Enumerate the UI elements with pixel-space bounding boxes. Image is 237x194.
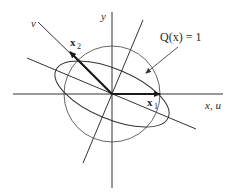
x2-label-main: x xyxy=(70,36,76,48)
q-level-set-label: Q(x) = 1 xyxy=(160,30,201,44)
v-axis-label: v xyxy=(31,17,36,29)
y-axis-label: y xyxy=(100,10,106,22)
annotation-leader-arrow xyxy=(146,47,178,73)
x1-label-sub: 1 xyxy=(154,102,158,111)
x1-label-main: x xyxy=(147,96,153,108)
x2-label-sub: 2 xyxy=(77,42,81,51)
x2-vector-label: x 2 xyxy=(70,36,81,51)
diagram-canvas: v y x, u x 2 x 1 Q(x) = 1 xyxy=(0,0,237,194)
x-u-axis-label: x, u xyxy=(204,99,221,111)
x2-vector-arrow xyxy=(70,52,112,94)
